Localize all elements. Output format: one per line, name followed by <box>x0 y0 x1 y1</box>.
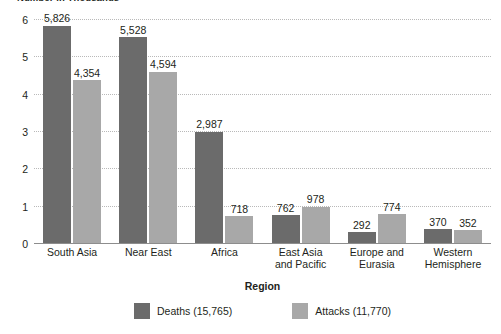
bar-column: 762 <box>272 19 300 243</box>
x-axis-tick-label: Near East <box>110 247 186 270</box>
x-axis-title: Region <box>34 280 491 292</box>
y-axis-tick-label: 3 <box>22 126 28 138</box>
y-axis-tick-label: 0 <box>22 238 28 250</box>
bar-deaths[interactable]: 2,987 <box>195 132 223 244</box>
y-axis-tick-label: 4 <box>22 89 28 101</box>
bar-column: 718 <box>225 19 253 243</box>
bar-column: 978 <box>302 19 330 243</box>
y-axis-tick-label: 5 <box>22 51 28 63</box>
bar-attacks[interactable]: 978 <box>302 207 330 244</box>
bar-column: 2,987 <box>195 19 223 243</box>
legend-item-attacks[interactable]: Attacks (11,770) <box>292 303 391 319</box>
bar-column: 4,594 <box>149 19 177 243</box>
bar-deaths[interactable]: 5,826 <box>43 26 71 244</box>
bar-group: 2,987718 <box>186 19 262 243</box>
legend-swatch-deaths <box>134 303 150 319</box>
x-axis-tick-labels: South AsiaNear EastAfricaEast Asiaand Pa… <box>34 247 491 270</box>
y-axis-tick-label: 2 <box>22 163 28 175</box>
gridline: 0 <box>34 243 491 244</box>
bar-value-label: 4,594 <box>150 59 176 70</box>
bar-column: 370 <box>424 19 452 243</box>
chart-legend: Deaths (15,765)Attacks (11,770) <box>34 303 491 319</box>
bar-group: 370352 <box>415 19 491 243</box>
y-axis-tick-label: 1 <box>22 201 28 213</box>
bar-value-label: 5,528 <box>120 25 146 36</box>
x-axis-tick-label: East Asiaand Pacific <box>263 247 339 270</box>
bar-attacks[interactable]: 774 <box>378 214 406 243</box>
bar-group: 5,5284,594 <box>110 19 186 243</box>
bar-column: 5,528 <box>119 19 147 243</box>
bar-column: 774 <box>378 19 406 243</box>
bar-value-label: 370 <box>429 217 447 228</box>
bar-group: 5,8264,354 <box>34 19 110 243</box>
bar-value-label: 774 <box>383 202 401 213</box>
bar-group: 762978 <box>263 19 339 243</box>
bar-attacks[interactable]: 4,594 <box>149 72 177 244</box>
bar-deaths[interactable]: 292 <box>348 232 376 243</box>
bar-value-label: 978 <box>307 194 325 205</box>
chart-title: Number in Thousands <box>17 0 119 3</box>
bar-column: 4,354 <box>73 19 101 243</box>
plot-area: 0123456 5,8264,3545,5284,5942,9877187629… <box>34 19 491 243</box>
bar-value-label: 2,987 <box>196 119 222 130</box>
bar-attacks[interactable]: 352 <box>454 230 482 243</box>
bar-deaths[interactable]: 5,528 <box>119 37 147 243</box>
bar-value-label: 718 <box>231 204 249 215</box>
y-axis-tick-label: 6 <box>22 14 28 26</box>
bar-value-label: 352 <box>459 218 477 229</box>
bar-attacks[interactable]: 718 <box>225 216 253 243</box>
x-axis-tick-label: South Asia <box>34 247 110 270</box>
bar-deaths[interactable]: 762 <box>272 215 300 243</box>
bar-column: 5,826 <box>43 19 71 243</box>
bar-value-label: 5,826 <box>44 13 70 24</box>
legend-label: Attacks (11,770) <box>315 305 391 317</box>
legend-label: Deaths (15,765) <box>157 305 232 317</box>
bar-value-label: 292 <box>353 220 371 231</box>
legend-item-deaths[interactable]: Deaths (15,765) <box>134 303 232 319</box>
bar-groups: 5,8264,3545,5284,5942,987718762978292774… <box>34 19 491 243</box>
bar-attacks[interactable]: 4,354 <box>73 80 101 243</box>
bar-group: 292774 <box>339 19 415 243</box>
x-axis-tick-label: WesternHemisphere <box>415 247 491 270</box>
bar-column: 292 <box>348 19 376 243</box>
x-axis-tick-label: Africa <box>186 247 262 270</box>
bar-column: 352 <box>454 19 482 243</box>
legend-swatch-attacks <box>292 303 308 319</box>
bar-chart: Number in Thousands 0123456 5,8264,3545,… <box>0 0 501 334</box>
bar-value-label: 4,354 <box>74 68 100 79</box>
x-axis-tick-label: Europe andEurasia <box>339 247 415 270</box>
bar-value-label: 762 <box>277 203 295 214</box>
bar-deaths[interactable]: 370 <box>424 229 452 243</box>
